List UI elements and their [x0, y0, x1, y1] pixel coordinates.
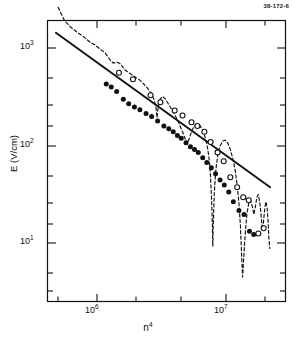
data-point-filled: [204, 160, 209, 165]
data-point-filled: [236, 208, 241, 213]
data-point-filled: [121, 97, 126, 102]
y-tick-label-100: 102: [20, 139, 34, 149]
data-point-filled: [155, 118, 160, 123]
data-point-filled: [226, 189, 231, 194]
axis-ticks: [48, 21, 286, 302]
data-point-filled: [126, 101, 131, 106]
data-point-filled: [149, 114, 154, 119]
x-tick-label-1e6: 106: [85, 305, 99, 315]
x-tick-label-1e7: 107: [214, 305, 228, 315]
data-point-filled: [242, 212, 247, 217]
data-point-open: [246, 198, 251, 203]
data-point-filled: [218, 177, 223, 182]
y-tick-exp-3: 3: [30, 39, 34, 46]
data-point-open: [189, 120, 194, 125]
x-axis-label: n4: [0, 322, 296, 333]
theory-curve-dashed: [58, 7, 270, 277]
data-point-filled: [171, 129, 176, 134]
data-point-open: [235, 185, 240, 190]
data-point-filled: [137, 107, 142, 112]
data-point-filled: [114, 89, 119, 94]
data-point-open: [172, 108, 177, 113]
data-point-open: [158, 100, 163, 105]
data-point-filled: [213, 171, 218, 176]
data-point-open: [208, 139, 213, 144]
y-axis-label: E (V/cm): [8, 119, 19, 189]
plot-frame: [48, 21, 286, 302]
data-point-filled: [166, 126, 171, 131]
data-point-open: [202, 129, 207, 134]
data-point-filled: [247, 229, 252, 234]
data-point-open: [116, 70, 121, 75]
data-point-open: [215, 150, 220, 155]
y-tick-exp-1: 1: [30, 234, 34, 241]
figure-container: 38-172-6: [0, 0, 296, 346]
data-point-filled: [188, 144, 193, 149]
data-point-filled: [231, 199, 236, 204]
data-point-filled: [222, 183, 227, 188]
data-point-open: [261, 226, 266, 231]
data-point-open: [130, 77, 135, 82]
y-tick-exp-2: 2: [30, 137, 34, 144]
data-point-open: [180, 113, 185, 118]
power-law-reference-line: [56, 33, 270, 187]
data-point-filled: [251, 232, 256, 237]
data-point-filled: [109, 85, 114, 90]
x-tick-exp-7: 7: [224, 303, 228, 310]
data-point-filled: [132, 105, 137, 110]
y-tick-label-10: 101: [20, 236, 34, 246]
data-point-filled: [161, 124, 166, 129]
data-point-filled: [184, 140, 189, 145]
y-tick-label-1000: 103: [20, 41, 34, 51]
data-point-open: [256, 231, 261, 236]
data-point-open: [228, 175, 233, 180]
x-axis-label-exponent: 4: [149, 321, 153, 328]
open-circle-series: [116, 70, 266, 236]
data-point-open: [221, 159, 226, 164]
x-tick-exp-6: 6: [95, 303, 99, 310]
data-point-filled: [196, 150, 201, 155]
data-point-open: [195, 124, 200, 129]
data-point-filled: [179, 136, 184, 141]
plot-canvas: [0, 0, 296, 346]
data-point-open: [148, 93, 153, 98]
data-point-open: [241, 195, 246, 200]
data-point-filled: [104, 81, 109, 86]
data-point-filled: [209, 165, 214, 170]
data-point-filled: [200, 155, 205, 160]
data-point-filled: [144, 111, 149, 116]
